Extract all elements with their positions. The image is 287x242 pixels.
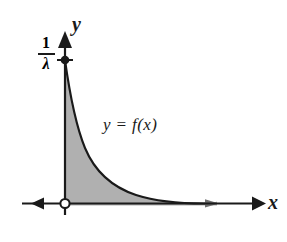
- curve-label: y = f(x): [103, 116, 157, 133]
- y-axis-label: y: [72, 14, 81, 34]
- fraction-denominator: λ: [34, 56, 58, 73]
- y-axis-arrowhead: [58, 31, 72, 48]
- y-intercept-value-label: 1 λ: [34, 35, 58, 73]
- x-axis-label: x: [268, 192, 278, 212]
- negative-x-ray-arrowhead: [31, 198, 44, 210]
- figure-canvas: y x y = f(x) 1 λ: [0, 0, 287, 242]
- filled-dot-marker: [61, 56, 70, 65]
- open-dot-marker: [60, 199, 69, 208]
- x-axis-arrowhead: [252, 197, 266, 211]
- fraction-numerator: 1: [34, 35, 58, 52]
